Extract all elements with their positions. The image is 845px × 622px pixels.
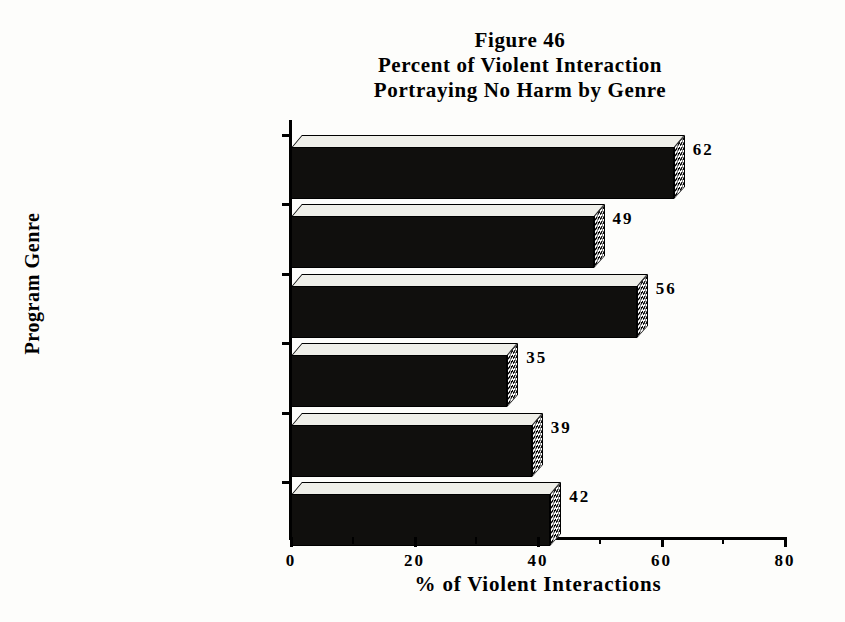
bar-value-label: 49 [613,209,634,229]
x-axis-tick-label: 20 [385,551,445,571]
bar-value-label: 62 [693,140,714,160]
bar-children-series[interactable] [291,147,685,212]
x-axis-tick-major [414,537,417,547]
bar-drama-series[interactable] [291,425,543,490]
bar-comedy-series[interactable] [291,216,605,281]
bar-side-face [532,412,543,476]
bar-music-videos[interactable] [291,286,648,351]
figure-title-line-2: Portraying No Harm by Genre [290,78,750,103]
y-axis-tick [282,203,291,206]
figure-title-block: Figure 46 Percent of Violent Interaction… [290,28,750,103]
bar-reality-based[interactable] [291,494,561,559]
x-axis-tick-minor [599,537,601,544]
x-axis-tick-major [784,537,787,547]
bar-value-label: 56 [656,279,677,299]
bar-front-face [291,494,550,546]
bar-front-face [291,216,594,268]
bar-value-label: 35 [526,348,547,368]
x-axis-tick-label: 80 [755,551,815,571]
x-axis-tick-label: 0 [261,551,321,571]
y-axis-tick [282,342,291,345]
x-axis-tick-major [661,537,664,547]
bar-side-face [507,343,518,407]
bar-value-label: 39 [551,418,572,438]
x-axis-tick-minor [722,537,724,544]
bar-side-face [550,482,561,546]
bar-movies[interactable] [291,355,518,420]
figure-canvas: Figure 46 Percent of Violent Interaction… [0,0,845,622]
bar-front-face [291,147,674,199]
y-axis-tick [282,481,291,484]
bar-side-face [674,134,685,198]
figure-number: Figure 46 [290,28,750,53]
x-axis-tick-minor [475,537,477,544]
bar-front-face [291,355,507,407]
x-axis-tick-major [537,537,540,547]
bar-side-face [594,204,605,268]
x-axis-tick-label: 40 [508,551,568,571]
y-axis-tick [282,412,291,415]
y-axis-tick [282,134,291,137]
plot-area: 624956353942 020406080 Children SeriesCo… [291,120,785,537]
y-axis-tick [282,273,291,276]
figure-title-line-1: Percent of Violent Interaction [290,53,750,78]
x-axis-title: % of Violent Interactions [291,572,785,597]
y-axis-title: Program Genre [21,194,44,374]
bar-front-face [291,286,637,338]
bar-front-face [291,425,532,477]
bar-value-label: 42 [569,487,590,507]
x-axis-tick-minor [352,537,354,544]
x-axis-tick-label: 60 [632,551,692,571]
bar-side-face [637,273,648,337]
x-axis-tick-major [290,537,293,547]
